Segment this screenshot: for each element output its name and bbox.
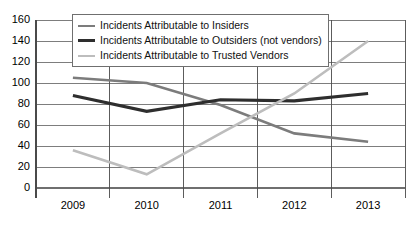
legend-item-label: Incidents Attributable to Insiders (100, 20, 249, 31)
y-axis-tick-label: 140 (2, 35, 30, 46)
y-axis-tick-label: 20 (2, 161, 30, 172)
x-axis-tick-label: 2009 (36, 200, 110, 211)
y-axis-tick-label: 160 (2, 14, 30, 25)
legend-item[interactable]: Incidents Attributable to Trusted Vendor… (78, 48, 322, 63)
y-axis-tick-label: 60 (2, 119, 30, 130)
x-axis-tick-label: 2011 (184, 200, 258, 211)
y-axis-tick-label: 100 (2, 77, 30, 88)
legend-item[interactable]: Incidents Attributable to Insiders (78, 18, 322, 33)
chart-legend: Incidents Attributable to InsidersIncide… (72, 14, 329, 67)
y-axis-tick-label: 0 (2, 182, 30, 193)
x-axis-tick-label: 2010 (110, 200, 184, 211)
line-chart: 160140120100806040200 200920102011201220… (0, 0, 412, 233)
legend-item-label: Incidents Attributable to Outsiders (not… (100, 35, 322, 46)
legend-item[interactable]: Incidents Attributable to Outsiders (not… (78, 33, 322, 48)
legend-swatch-line-icon (78, 39, 95, 42)
legend-swatch-line-icon (78, 25, 95, 27)
legend-item-label: Incidents Attributable to Trusted Vendor… (100, 50, 289, 61)
series-line-1 (73, 94, 368, 112)
y-axis-tick-label: 40 (2, 140, 30, 151)
y-axis-tick-label: 120 (2, 56, 30, 67)
x-axis-tick-label: 2012 (257, 200, 331, 211)
x-axis-tick-label: 2013 (331, 200, 405, 211)
y-axis-tick-label: 80 (2, 98, 30, 109)
legend-swatch-line-icon (78, 55, 95, 57)
